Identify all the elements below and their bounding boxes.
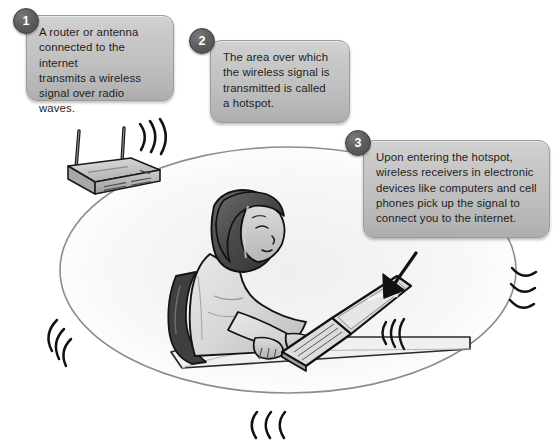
router-antenna-right — [122, 128, 124, 162]
callout-text-2: The area over which the wireless signal … — [223, 50, 338, 111]
hotspot-left-waves — [48, 320, 71, 366]
person-at-laptop — [190, 190, 318, 360]
face-features — [256, 226, 274, 252]
laptop — [282, 276, 411, 371]
diagram-canvas: 1 A router or antenna connected to the i… — [0, 0, 557, 448]
callout-badge-3: 3 — [345, 130, 371, 156]
router-vents — [104, 178, 151, 190]
callout-text-3: Upon entering the hotspot, wireless rece… — [376, 150, 538, 226]
office-chair — [168, 272, 206, 364]
callout-box-2: The area over which the wireless signal … — [210, 40, 350, 123]
hotspot-right-waves — [510, 268, 536, 308]
laptop-keys — [294, 324, 342, 360]
callout-box-1: A router or antenna connected to the int… — [26, 15, 174, 101]
hotspot-bottom-waves — [252, 412, 285, 438]
callout-text-1: A router or antenna connected to the int… — [39, 25, 162, 117]
laptop-signal-waves — [383, 319, 405, 349]
router-antenna-left — [76, 131, 79, 168]
wireless-router — [68, 128, 160, 194]
hands — [254, 334, 318, 361]
callout-badge-1: 1 — [13, 8, 39, 34]
pointer-arrow — [383, 253, 416, 298]
desk — [171, 337, 470, 368]
callout-badge-2: 2 — [189, 28, 215, 54]
router-signal-waves — [140, 119, 166, 154]
callout-box-3: Upon entering the hotspot, wireless rece… — [363, 140, 550, 238]
